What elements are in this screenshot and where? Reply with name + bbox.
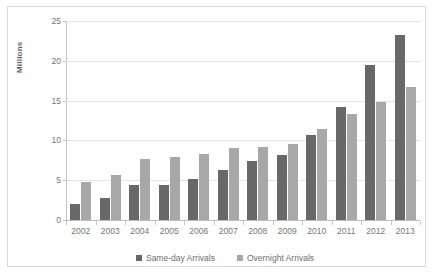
y-tick-label: 5 (22, 175, 66, 185)
legend-swatch-icon (136, 255, 142, 261)
chart-legend: Same-day ArrivalsOvernight Arrivals (8, 253, 434, 263)
x-tick-label: 2008 (243, 226, 273, 236)
x-tick-label: 2004 (125, 226, 155, 236)
bar[interactable] (129, 185, 139, 220)
y-axis-ticks: 0510152025 (8, 21, 66, 220)
x-tick-mark (155, 221, 156, 225)
x-tick-mark (243, 221, 244, 225)
bar[interactable] (218, 170, 228, 220)
bar[interactable] (159, 185, 169, 220)
bar-group (96, 21, 126, 220)
x-tick-label: 2006 (184, 226, 214, 236)
bar[interactable] (395, 35, 405, 220)
bar[interactable] (81, 182, 91, 220)
bar[interactable] (376, 102, 386, 220)
x-tick-label: 2003 (96, 226, 126, 236)
bar[interactable] (277, 155, 287, 220)
x-tick-mark (420, 221, 421, 225)
x-tick-label: 2012 (361, 226, 391, 236)
bar[interactable] (247, 161, 257, 220)
bar[interactable] (306, 135, 316, 220)
x-axis-ticks (66, 221, 420, 225)
x-tick-label: 2007 (214, 226, 244, 236)
bar[interactable] (199, 154, 209, 220)
bar[interactable] (100, 198, 110, 220)
x-tick-label: 2013 (391, 226, 421, 236)
bar-group (391, 21, 421, 220)
x-axis-labels: 2002200320042005200620072008200920102011… (66, 226, 420, 236)
x-tick-label: 2010 (302, 226, 332, 236)
bar-group (214, 21, 244, 220)
x-tick-mark (361, 221, 362, 225)
bar-group (361, 21, 391, 220)
x-tick-label: 2011 (332, 226, 362, 236)
bar[interactable] (229, 148, 239, 220)
legend-item[interactable]: Same-day Arrivals (136, 253, 215, 263)
legend-label: Overnight Arrivals (247, 253, 314, 263)
bar[interactable] (347, 114, 357, 220)
y-tick-label: 10 (22, 135, 66, 145)
x-tick-mark (302, 221, 303, 225)
bar[interactable] (288, 144, 298, 220)
bar[interactable] (317, 129, 327, 220)
y-tick-label: 0 (22, 215, 66, 225)
y-tick-label: 20 (22, 56, 66, 66)
x-tick-mark (214, 221, 215, 225)
x-tick-label: 2009 (273, 226, 303, 236)
x-tick-mark (184, 221, 185, 225)
bar[interactable] (188, 179, 198, 220)
bar-group (155, 21, 185, 220)
legend-label: Same-day Arrivals (146, 253, 215, 263)
bar[interactable] (170, 157, 180, 220)
bar[interactable] (140, 159, 150, 220)
chart-frame: Millions 0510152025 20022003200420052006… (7, 6, 426, 267)
x-tick-mark (391, 221, 392, 225)
bar[interactable] (258, 147, 268, 220)
x-tick-label: 2005 (155, 226, 185, 236)
legend-swatch-icon (237, 255, 243, 261)
bar-group (273, 21, 303, 220)
bar[interactable] (365, 65, 375, 220)
x-tick-mark (96, 221, 97, 225)
legend-item[interactable]: Overnight Arrivals (237, 253, 314, 263)
bar-group (302, 21, 332, 220)
bar[interactable] (336, 107, 346, 220)
bar-group (332, 21, 362, 220)
bar[interactable] (406, 87, 416, 220)
bar[interactable] (70, 204, 80, 220)
y-tick-label: 15 (22, 96, 66, 106)
x-tick-mark (332, 221, 333, 225)
plot-area (66, 21, 420, 220)
bar-group (243, 21, 273, 220)
x-tick-mark (125, 221, 126, 225)
y-tick-label: 25 (22, 16, 66, 26)
x-tick-label: 2002 (66, 226, 96, 236)
x-tick-mark (273, 221, 274, 225)
bar-group (184, 21, 214, 220)
bar[interactable] (111, 175, 121, 220)
x-tick-mark (66, 221, 67, 225)
bars-layer (66, 21, 420, 220)
bar-group (125, 21, 155, 220)
bar-group (66, 21, 96, 220)
